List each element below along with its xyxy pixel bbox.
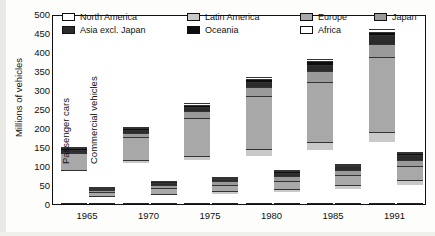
bar-segment-africa-passenger-cars-1970 — [123, 127, 149, 128]
bar-segment-oceania-commercial-vehicles-1991 — [397, 153, 423, 155]
bar-segment-europe-passenger-cars-1991 — [369, 57, 395, 131]
x-tick-label-1985: 1985 — [322, 210, 343, 221]
bar-segment-africa-commercial-vehicles-1980 — [274, 170, 300, 171]
bar-segment-latin-america-passenger-cars-1985 — [307, 142, 333, 150]
bar-segment-latin-america-passenger-cars-1991 — [369, 132, 395, 142]
bar-segment-oceania-commercial-vehicles-1980 — [274, 171, 300, 172]
bar-segment-japan-passenger-cars-1991 — [369, 44, 395, 58]
legend-item-japan: Japan — [374, 12, 417, 22]
bar-segment-europe-passenger-cars-1985 — [307, 82, 333, 142]
x-axis-ticks: 196519701975198019851991 — [52, 207, 426, 227]
legend-label-japan: Japan — [392, 12, 417, 22]
legend-item-europe: Europe — [300, 12, 347, 22]
bar-segment-latin-america-commercial-vehicles-1991 — [397, 180, 423, 185]
legend-item-latin-america: Latin America — [187, 12, 260, 22]
bar-segment-latin-america-commercial-vehicles-1970 — [151, 194, 177, 196]
bar-segment-latin-america-commercial-vehicles-1965 — [89, 196, 115, 197]
bar-passenger-cars-1980 — [246, 78, 272, 204]
plot-inner: Passenger carsCommercial vehicles — [53, 16, 425, 204]
bar-segment-asia-excl-japan-commercial-vehicles-1970 — [151, 183, 177, 185]
bar-segment-africa-commercial-vehicles-1965 — [89, 187, 115, 188]
bar-segment-north-america-commercial-vehicles-1980 — [274, 192, 300, 203]
bar-commercial-vehicles-1970 — [151, 182, 177, 204]
x-tick-label-1991: 1991 — [384, 210, 405, 221]
y-tick-label-100: 100 — [34, 162, 50, 172]
legend-label-oceania: Oceania — [205, 25, 239, 35]
bar-segment-north-america-commercial-vehicles-1965 — [89, 197, 115, 203]
bar-segment-latin-america-passenger-cars-1975 — [184, 156, 210, 161]
chart-legend: North AmericaLatin AmericaEuropeJapanAsi… — [62, 12, 418, 38]
bar-segment-africa-passenger-cars-1975 — [184, 103, 210, 105]
y-tick-label-200: 200 — [34, 124, 50, 134]
legend-label-latin-america: Latin America — [205, 12, 260, 22]
legend-swatch-latin-america — [187, 13, 200, 21]
bar-passenger-cars-1991 — [369, 30, 395, 204]
bar-segment-europe-commercial-vehicles-1985 — [335, 175, 361, 185]
bar-segment-oceania-passenger-cars-1985 — [307, 61, 333, 64]
bar-segment-japan-passenger-cars-1985 — [307, 71, 333, 82]
legend-item-north-america: North America — [62, 12, 137, 22]
bar-segment-north-america-passenger-cars-1980 — [246, 156, 272, 204]
legend-swatch-europe — [300, 13, 313, 21]
bar-segment-japan-commercial-vehicles-1965 — [89, 190, 115, 192]
bar-commercial-vehicles-1985 — [335, 164, 361, 204]
bar-segment-asia-excl-japan-commercial-vehicles-1985 — [335, 166, 361, 170]
bar-segment-japan-commercial-vehicles-1970 — [151, 185, 177, 188]
bar-segment-asia-excl-japan-commercial-vehicles-1965 — [89, 189, 115, 191]
bar-segment-japan-commercial-vehicles-1980 — [274, 176, 300, 181]
legend-label-africa: Africa — [318, 25, 341, 35]
bar-segment-europe-passenger-cars-1980 — [246, 96, 272, 149]
bar-segment-africa-commercial-vehicles-1985 — [335, 164, 361, 165]
bar-passenger-cars-1975 — [184, 104, 210, 204]
bar-segment-europe-commercial-vehicles-1970 — [151, 188, 177, 193]
bar-segment-africa-commercial-vehicles-1991 — [397, 152, 423, 154]
bar-segment-north-america-passenger-cars-1965 — [61, 171, 87, 203]
y-tick-label-350: 350 — [34, 67, 50, 77]
bar-segment-north-america-passenger-cars-1991 — [369, 142, 395, 203]
x-tick-label-1975: 1975 — [199, 210, 220, 221]
legend-item-africa: Africa — [300, 25, 341, 35]
y-tick-label-500: 500 — [34, 10, 50, 20]
bar-segment-asia-excl-japan-commercial-vehicles-1980 — [274, 173, 300, 176]
bar-segment-latin-america-passenger-cars-1980 — [246, 149, 272, 155]
bar-commercial-vehicles-1991 — [397, 153, 423, 204]
bar-passenger-cars-1985 — [307, 60, 333, 204]
legend-swatch-africa — [300, 26, 313, 34]
bar-segment-europe-passenger-cars-1975 — [184, 118, 210, 156]
plot-area: Passenger carsCommercial vehicles — [52, 15, 426, 205]
y-tick-label-300: 300 — [34, 86, 50, 96]
bar-commercial-vehicles-1965 — [89, 189, 115, 204]
bar-segment-europe-commercial-vehicles-1975 — [212, 185, 238, 191]
x-tick-label-1965: 1965 — [76, 210, 97, 221]
bar-segment-north-america-commercial-vehicles-1975 — [212, 194, 238, 203]
bar-segment-europe-passenger-cars-1970 — [123, 137, 149, 160]
bar-segment-africa-commercial-vehicles-1970 — [151, 181, 177, 182]
scan-edge-bottom — [0, 232, 435, 236]
chart-figure: Millions of vehicles 0501001502002503003… — [0, 0, 435, 236]
scan-edge-left — [0, 0, 6, 236]
legend-label-asia-excl-japan: Asia excl. Japan — [80, 25, 146, 35]
bar-segment-north-america-commercial-vehicles-1970 — [151, 195, 177, 203]
annotation-passenger-cars: Passenger cars — [60, 98, 71, 164]
bar-passenger-cars-1970 — [123, 128, 149, 204]
bar-commercial-vehicles-1975 — [212, 178, 238, 204]
legend-label-europe: Europe — [318, 12, 347, 22]
bar-segment-latin-america-commercial-vehicles-1980 — [274, 189, 300, 192]
legend-item-asia-excl-japan: Asia excl. Japan — [62, 25, 146, 35]
y-tick-label-50: 50 — [39, 181, 50, 191]
bar-segment-africa-passenger-cars-1980 — [246, 77, 272, 79]
bar-segment-asia-excl-japan-commercial-vehicles-1975 — [212, 179, 238, 182]
bar-segment-oceania-passenger-cars-1970 — [123, 128, 149, 130]
bar-segment-latin-america-commercial-vehicles-1975 — [212, 191, 238, 194]
x-tick-label-1980: 1980 — [261, 210, 282, 221]
legend-label-north-america: North America — [80, 12, 137, 22]
y-tick-label-250: 250 — [34, 105, 50, 115]
bar-segment-japan-passenger-cars-1980 — [246, 87, 272, 96]
y-tick-label-450: 450 — [34, 29, 50, 39]
bar-segment-oceania-passenger-cars-1980 — [246, 79, 272, 82]
bar-segment-north-america-passenger-cars-1970 — [123, 163, 149, 203]
bar-segment-japan-passenger-cars-1975 — [184, 111, 210, 117]
bar-segment-oceania-passenger-cars-1975 — [184, 105, 210, 108]
bar-segment-europe-commercial-vehicles-1965 — [89, 192, 115, 196]
bar-segment-north-america-commercial-vehicles-1991 — [397, 185, 423, 203]
